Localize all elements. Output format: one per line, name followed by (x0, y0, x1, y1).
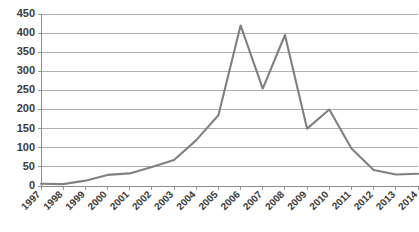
y-axis-tick-label: 200 (17, 102, 35, 114)
y-axis-tick-label: 300 (17, 64, 35, 76)
y-axis-tick-label: 100 (17, 141, 35, 153)
y-axis-tick-label: 350 (17, 45, 35, 57)
y-axis-tick-label: 250 (17, 83, 35, 95)
y-axis-tick-label: 400 (17, 26, 35, 38)
chart-canvas: 050100150200250300350400450 199719981999… (0, 0, 419, 232)
y-axis-tick-label: 150 (17, 122, 35, 134)
line-chart: 050100150200250300350400450 199719981999… (0, 0, 419, 232)
y-axis-tick-label: 450 (17, 7, 35, 19)
y-axis-tick-label: 50 (23, 160, 35, 172)
plot-area (41, 14, 418, 186)
